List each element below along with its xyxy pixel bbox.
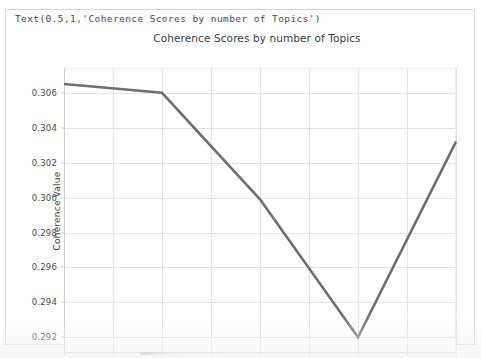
y-tickmark bbox=[61, 302, 64, 303]
scan-artifact bbox=[140, 352, 290, 355]
gridline-vertical bbox=[456, 68, 457, 353]
y-axis-label: Coherence Value bbox=[52, 171, 62, 250]
y-tickmark bbox=[61, 92, 64, 93]
y-tickmark bbox=[61, 162, 64, 163]
x-tickmark bbox=[64, 353, 65, 356]
chart-title: Coherence Scores by number of Topics bbox=[58, 32, 456, 44]
y-tickmark bbox=[61, 337, 64, 338]
y-tick-label: 0.306 bbox=[32, 88, 57, 98]
chart-axes: 0.2920.2940.2960.2980.3000.3020.3040.306… bbox=[64, 68, 456, 353]
series-line-coherence bbox=[64, 68, 456, 353]
x-tickmark bbox=[407, 353, 408, 356]
matplotlib-text-repr: Text(0.5,1,'Coherence Scores by number o… bbox=[15, 13, 321, 24]
chart-figure: Coherence Scores by number of Topics 0.2… bbox=[6, 26, 474, 344]
y-tick-label: 0.302 bbox=[32, 158, 57, 168]
y-tick-label: 0.304 bbox=[32, 123, 57, 133]
y-tick-label: 0.292 bbox=[32, 332, 57, 342]
y-tick-label: 0.294 bbox=[32, 297, 57, 307]
y-tick-label: 0.296 bbox=[32, 262, 57, 272]
y-tickmark bbox=[61, 127, 64, 128]
y-tickmark bbox=[61, 267, 64, 268]
x-tickmark bbox=[358, 353, 359, 356]
x-tickmark bbox=[113, 353, 114, 356]
x-tickmark bbox=[456, 353, 457, 356]
x-tickmark bbox=[309, 353, 310, 356]
